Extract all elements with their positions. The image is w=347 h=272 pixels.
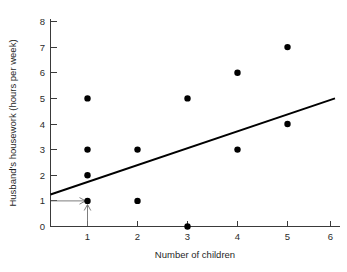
data-point-highlighted bbox=[84, 198, 90, 204]
x-tick-label-1: 1 bbox=[85, 231, 90, 242]
x-axis-title: Number of children bbox=[155, 249, 235, 260]
data-point bbox=[284, 44, 290, 50]
data-point bbox=[184, 223, 190, 229]
y-tick-label-7: 7 bbox=[40, 42, 45, 53]
y-axis-title: Husband's housework (hours per week) bbox=[7, 39, 18, 206]
x-axis-ticks bbox=[88, 221, 331, 227]
scatter-chart: 8 7 6 5 4 3 2 1 0 Husband's housework (h… bbox=[0, 0, 347, 272]
data-point bbox=[234, 146, 240, 152]
data-point bbox=[84, 172, 90, 178]
data-point bbox=[84, 95, 90, 101]
x-tick-label-4: 4 bbox=[235, 231, 240, 242]
y-tick-label-2: 2 bbox=[40, 170, 45, 181]
x-tick-label-2: 2 bbox=[135, 231, 140, 242]
y-axis-ticks bbox=[51, 22, 57, 227]
x-tick-label-6: 6 bbox=[328, 231, 333, 242]
data-point bbox=[134, 198, 140, 204]
data-point-group bbox=[84, 44, 290, 230]
y-tick-label-0: 0 bbox=[40, 221, 45, 232]
data-point bbox=[284, 121, 290, 127]
chart-canvas: 8 7 6 5 4 3 2 1 0 Husband's housework (h… bbox=[0, 0, 347, 272]
y-tick-label-6: 6 bbox=[40, 67, 45, 78]
y-tick-label-8: 8 bbox=[40, 16, 45, 27]
y-tick-label-5: 5 bbox=[40, 93, 45, 104]
x-tick-label-5: 5 bbox=[285, 231, 290, 242]
y-axis-tick-labels: 8 7 6 5 4 3 2 1 0 bbox=[40, 16, 45, 232]
trend-line bbox=[51, 98, 336, 194]
x-axis-tick-labels: 1 2 3 4 5 6 bbox=[85, 231, 333, 242]
y-tick-label-3: 3 bbox=[40, 144, 45, 155]
y-tick-label-1: 1 bbox=[40, 195, 45, 206]
data-point bbox=[134, 146, 140, 152]
x-tick-label-3: 3 bbox=[185, 231, 190, 242]
y-tick-label-4: 4 bbox=[40, 119, 45, 130]
data-point bbox=[234, 70, 240, 76]
data-point bbox=[84, 146, 90, 152]
data-point bbox=[184, 95, 190, 101]
